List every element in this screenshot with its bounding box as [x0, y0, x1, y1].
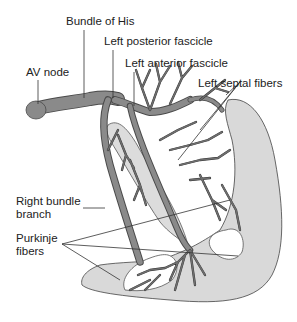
label-left-anterior-fascicle: Left anterior fascicle	[125, 57, 228, 70]
label-purkinje-fibers: Purkinje fibers	[16, 232, 58, 258]
label-bundle-of-his: Bundle of His	[66, 15, 134, 28]
av-node	[26, 101, 46, 119]
label-left-posterior-fascicle: Left posterior fascicle	[104, 35, 213, 48]
label-right-bundle-branch: Right bundle branch	[16, 195, 81, 221]
label-left-septal-fibers: Left septal fibers	[198, 77, 282, 90]
left-anterior-fascicle	[190, 98, 222, 110]
conduction-system-diagram	[0, 0, 297, 322]
label-purkinje-fibers-line1: Purkinje	[16, 232, 58, 245]
label-av-node: AV node	[26, 66, 69, 79]
label-right-bundle-branch-line2: branch	[16, 208, 81, 221]
label-right-bundle-branch-line1: Right bundle	[16, 195, 81, 208]
label-purkinje-fibers-line2: fibers	[16, 245, 58, 258]
